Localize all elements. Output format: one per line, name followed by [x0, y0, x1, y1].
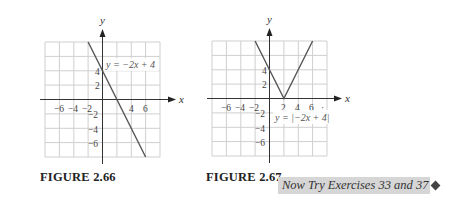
now-try-text: Now Try Exercises 33 and 37: [282, 178, 428, 192]
figure-2-66: x y −6 −4 −2 4 6 4 2 −2 −4 −6 y = −2x + …: [0, 0, 200, 174]
figure-caption: FIGURE 2.66: [40, 170, 116, 185]
x-axis-label: x: [344, 92, 350, 104]
svg-text:−2: −2: [88, 110, 98, 120]
equation-label: y = −2x + 4: [105, 59, 155, 70]
x-tick-labels: −6 −4 −2 4 6: [54, 104, 148, 114]
svg-text:−4: −4: [235, 103, 245, 113]
svg-text:−6: −6: [255, 138, 265, 148]
svg-text:−6: −6: [221, 103, 231, 113]
svg-text:−4: −4: [68, 104, 78, 114]
y-axis-label: y: [266, 13, 272, 25]
svg-text:−4: −4: [88, 125, 98, 135]
svg-text:4: 4: [129, 104, 134, 114]
svg-text:2: 2: [95, 81, 100, 91]
svg-text:−4: −4: [255, 124, 265, 134]
graph-linear: x y −6 −4 −2 4 6 4 2 −2 −4 −6 y = −2x + …: [0, 0, 200, 170]
diamond-icon: [431, 181, 441, 191]
graph-absolute-value: x y −6 −4 −2 2 4 6 · 4 2 −2 −4 −6 y = |−…: [200, 0, 400, 170]
y-axis-label: y: [99, 14, 105, 26]
axes: [40, 29, 176, 164]
svg-text:6: 6: [143, 104, 148, 114]
figure-caption: FIGURE 2.67: [206, 170, 282, 185]
now-try-exercises-banner: Now Try Exercises 33 and 37: [278, 177, 430, 194]
figure-2-67: x y −6 −4 −2 2 4 6 · 4 2 −2 −4 −6 y = |−…: [200, 0, 400, 174]
svg-text:−6: −6: [54, 104, 64, 114]
svg-text:−2: −2: [255, 109, 265, 119]
svg-text:4: 4: [262, 66, 267, 76]
x-axis-label: x: [178, 93, 184, 105]
svg-text:4: 4: [95, 67, 100, 77]
equation-label: y = |−2x + 4|: [274, 112, 330, 123]
svg-text:−6: −6: [88, 139, 98, 149]
svg-text:2: 2: [262, 80, 267, 90]
axes: [207, 28, 342, 163]
